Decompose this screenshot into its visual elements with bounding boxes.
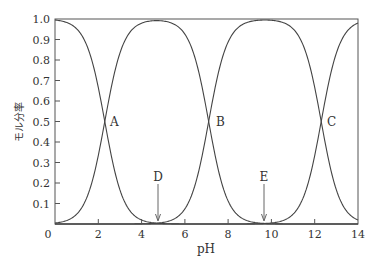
species-curve-2 bbox=[55, 20, 358, 224]
point-label-c: C bbox=[327, 115, 336, 129]
point-label-e: E bbox=[260, 170, 269, 184]
point-label-a: A bbox=[109, 115, 119, 129]
x-axis-title: pH bbox=[197, 242, 215, 256]
y-ticks bbox=[55, 40, 60, 204]
arrow-d bbox=[156, 184, 161, 221]
x-tick-label: 6 bbox=[181, 228, 188, 241]
arrow-e bbox=[262, 184, 267, 221]
y-tick-label: 0.1 bbox=[33, 198, 51, 211]
point-label-d: D bbox=[153, 170, 163, 184]
curves bbox=[55, 20, 358, 224]
y-axis-title: モル分率 bbox=[13, 102, 25, 142]
y-tick-label: 0.5 bbox=[33, 116, 51, 129]
x-tick-label: 10 bbox=[264, 228, 278, 241]
x-tick-label: 2 bbox=[95, 228, 102, 241]
y-tick-label: 0.6 bbox=[33, 95, 51, 108]
point-label-b: B bbox=[216, 115, 225, 129]
y-tick-label: 0.3 bbox=[33, 157, 51, 170]
x-tick-label: 12 bbox=[308, 228, 322, 241]
x-tick-label: 4 bbox=[138, 228, 145, 241]
y-tick-label: 1.0 bbox=[33, 13, 51, 26]
plot-frame bbox=[55, 19, 358, 224]
y-tick-label: 0.2 bbox=[33, 177, 51, 190]
chart: 0.1 0.2 0.3 0.4 0.5 0.6 0.7 0.8 0.9 1.0 … bbox=[0, 0, 382, 266]
species-curve-1 bbox=[55, 21, 358, 224]
x-tick-labels: 0 2 4 6 8 10 12 14 bbox=[45, 228, 366, 241]
y-tick-label: 0.4 bbox=[33, 136, 51, 149]
species-curve-3 bbox=[55, 23, 358, 224]
y-tick-labels: 0.1 0.2 0.3 0.4 0.5 0.6 0.7 0.8 0.9 1.0 bbox=[33, 13, 51, 211]
species-curve-0 bbox=[55, 20, 358, 224]
x-tick-label: 0 bbox=[45, 228, 52, 241]
y-tick-label: 0.7 bbox=[33, 75, 51, 88]
x-ticks bbox=[98, 219, 314, 224]
y-tick-label: 0.9 bbox=[33, 34, 51, 47]
x-tick-label: 8 bbox=[225, 228, 232, 241]
x-tick-label: 14 bbox=[351, 228, 365, 241]
y-tick-label: 0.8 bbox=[33, 54, 51, 67]
